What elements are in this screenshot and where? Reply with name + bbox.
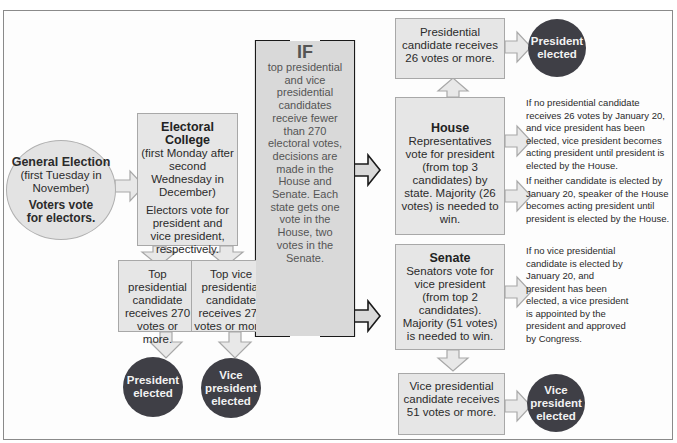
- senate-result-text: Vice presidential candidate receives 51 …: [404, 380, 500, 418]
- note-speaker-acting: If neither candidate is elected by Janua…: [526, 175, 670, 225]
- general-election-when: (first Tuesday in November): [7, 169, 115, 195]
- general-election-title: General Election: [12, 156, 111, 169]
- electoral-college-box: Electoral College (first Monday after se…: [137, 113, 238, 246]
- arrow-right-icon: [354, 155, 380, 185]
- vice-president-elected-label-2: Vice president elected: [526, 384, 586, 423]
- president-elected-label: President elected: [123, 374, 183, 400]
- if-text: top presidential and vice presidential c…: [256, 61, 354, 264]
- if-heading: IF: [256, 43, 354, 61]
- house-title: House: [431, 121, 469, 135]
- electoral-college-action: Electors vote for president and vice pre…: [141, 204, 234, 256]
- president-elected-label-2: President elected: [526, 35, 588, 61]
- house-text: Representatives vote for president (from…: [401, 135, 498, 225]
- arrow-up-icon: [438, 78, 468, 97]
- electoral-college-when: (first Monday after second Wednesday in …: [141, 147, 234, 198]
- vice-president-elected-circle: Vice president elected: [201, 358, 261, 418]
- senate-title: Senate: [430, 251, 471, 265]
- arrow-down-icon: [438, 350, 468, 371]
- note-vp-appointed: If no vice presidential candidate is ele…: [526, 245, 634, 345]
- president-elected-circle-2: President elected: [528, 19, 586, 77]
- senate-text: Senators vote for vice president (from t…: [403, 265, 498, 342]
- general-election-action: Voters vote for electors.: [7, 199, 115, 225]
- general-election-node: General Election (first Tuesday in Novem…: [6, 140, 116, 240]
- if-condition-box: IF top presidential and vice presidentia…: [256, 41, 354, 336]
- house-result-text: Presidential candidate receives 26 votes…: [402, 26, 498, 64]
- vice-president-elected-label: Vice president elected: [201, 369, 261, 408]
- arrow-down-icon: [219, 332, 251, 358]
- house-result-box: Presidential candidate receives 26 votes…: [395, 18, 505, 79]
- electoral-college-title: Electoral College: [161, 120, 214, 147]
- top-president-box: Top presidential candidate receives 270 …: [118, 260, 197, 332]
- senate-box: Senate Senators vote for vice president …: [395, 244, 505, 350]
- arrow-right-icon: [354, 301, 380, 331]
- note-house-vp-acting: If no presidential candidate receives 26…: [526, 97, 670, 172]
- house-box: House Representatives vote for president…: [395, 97, 505, 235]
- senate-result-box: Vice presidential candidate receives 51 …: [398, 373, 505, 435]
- vice-president-elected-circle-2: Vice president elected: [527, 374, 585, 432]
- president-elected-circle: President elected: [123, 357, 183, 417]
